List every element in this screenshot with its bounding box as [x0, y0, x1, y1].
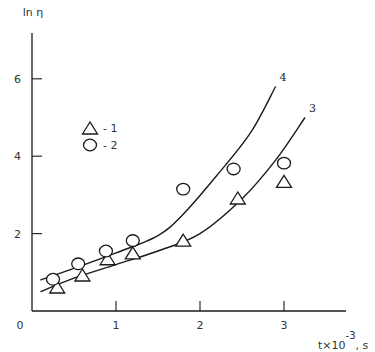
circle-marker [99, 245, 112, 257]
chart: 2461230ln ηt×10-3, s 43 - 1- 2 [0, 0, 375, 352]
x-tick-label: 2 [197, 319, 204, 332]
circle-marker [126, 235, 139, 247]
circle-marker [47, 273, 60, 285]
origin-label: 0 [17, 319, 24, 332]
circle-marker [72, 258, 85, 270]
curve-label-3: 3 [309, 102, 316, 115]
circle-marker [227, 163, 240, 175]
legend-triangle-icon [83, 122, 98, 134]
legend-circle-icon [84, 139, 97, 151]
circle-marker [177, 183, 190, 195]
y-tick-label: 6 [14, 73, 21, 86]
legend: - 1- 2 [83, 122, 118, 152]
axes: 2461230ln ηt×10-3, s [14, 6, 369, 352]
triangle-marker [277, 175, 292, 187]
circle-marker [278, 157, 291, 169]
y-axis-label: ln η [23, 6, 44, 19]
data-markers [47, 157, 292, 293]
triangle-marker [75, 269, 90, 281]
x-tick-label: 1 [113, 319, 120, 332]
x-axis-label: t×10-3, s [318, 330, 369, 352]
legend-label: - 2 [103, 139, 117, 152]
legend-label: - 1 [103, 122, 117, 135]
y-tick-label: 2 [14, 228, 21, 241]
y-tick-label: 4 [14, 150, 21, 163]
x-tick-label: 3 [281, 319, 288, 332]
curve-label-4: 4 [280, 71, 287, 84]
